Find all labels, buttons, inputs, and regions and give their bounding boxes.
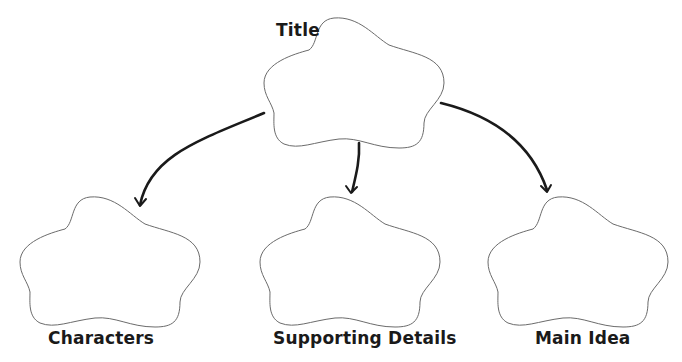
arrow-to-supporting-details	[346, 143, 359, 193]
node-characters-label: Characters	[48, 328, 154, 348]
node-supporting-details-shape	[260, 197, 440, 327]
node-main-idea-shape	[488, 197, 668, 327]
diagram-canvas	[0, 0, 682, 362]
arrow-to-characters	[135, 113, 264, 206]
node-main-idea-label: Main Idea	[535, 328, 631, 348]
node-title-label: Title	[276, 20, 320, 40]
node-supporting-details-label: Supporting Details	[273, 328, 457, 348]
arrow-to-main-idea	[441, 103, 551, 192]
node-characters-shape	[20, 197, 200, 327]
